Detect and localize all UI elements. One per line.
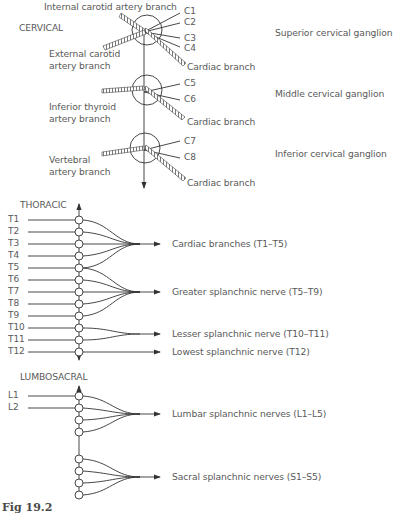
vertebral-label-2: artery branch (49, 166, 110, 177)
output-cardiac-branches: Cardiac branches (T1–T5) (172, 238, 287, 249)
level-t7: T7 (8, 286, 19, 297)
superior-cervical-ganglion-label: Superior cervical ganglion (275, 27, 392, 38)
root-c7: C7 (184, 136, 196, 147)
section-lumbosacral: LUMBOSACRAL (20, 371, 88, 382)
level-t5: T5 (8, 262, 19, 273)
root-c4: C4 (184, 43, 196, 54)
level-t1: T1 (8, 214, 19, 225)
thoracic-roots (28, 220, 75, 352)
inferior-cervical-ganglion-label: Inferior cervical ganglion (275, 148, 387, 159)
level-l2: L2 (8, 402, 19, 413)
root-c5: C5 (184, 78, 196, 89)
internal-carotid-label: Internal carotid artery branch (44, 1, 177, 12)
output-sacral-splanchnic: Sacral splanchnic nerves (S1–S5) (172, 471, 321, 482)
output-lowest-splanchnic: Lowest splanchnic nerve (T12) (172, 346, 310, 357)
level-t6: T6 (8, 274, 19, 285)
sympathetic-chain-diagram (0, 0, 393, 518)
level-t11: T11 (8, 334, 25, 345)
external-carotid-label-2: artery branch (49, 60, 110, 71)
vertebral-label-1: Vertebral (49, 154, 90, 165)
level-t2: T2 (8, 226, 19, 237)
middle-cervical-ganglion-label: Middle cervical ganglion (275, 88, 384, 99)
root-c6: C6 (184, 94, 196, 105)
output-greater-splanchnic: Greater splanchnic nerve (T5–T9) (172, 286, 323, 297)
section-thoracic: THORACIC (20, 199, 67, 210)
lumbosacral-chain (28, 386, 160, 496)
level-l1: L1 (8, 390, 19, 401)
level-t8: T8 (8, 298, 19, 309)
output-lesser-splanchnic: Lesser splanchnic nerve (T10–T11) (172, 328, 329, 339)
level-t12: T12 (8, 346, 25, 357)
inferior-thyroid-label-2: artery branch (49, 113, 110, 124)
level-t9: T9 (8, 310, 19, 321)
root-c2: C2 (184, 17, 196, 28)
level-t4: T4 (8, 250, 19, 261)
cardiac-branch-superior: Cardiac branch (187, 61, 255, 72)
figure-label: Fig 19.2 (2, 501, 52, 514)
output-lumbar-splanchnic: Lumbar splanchnic nerves (L1–L5) (172, 408, 326, 419)
cardiac-branch-inferior: Cardiac branch (187, 177, 255, 188)
external-carotid-label-1: External carotid (49, 48, 120, 59)
root-c1: C1 (184, 6, 196, 17)
inferior-thyroid-label-1: Inferior thyroid (49, 101, 116, 112)
root-c8: C8 (184, 152, 196, 163)
level-t3: T3 (8, 238, 19, 249)
level-t10: T10 (8, 322, 25, 333)
section-cervical: CERVICAL (19, 22, 63, 33)
thoracic-chain (28, 204, 160, 360)
cardiac-branch-middle: Cardiac branch (187, 116, 255, 127)
